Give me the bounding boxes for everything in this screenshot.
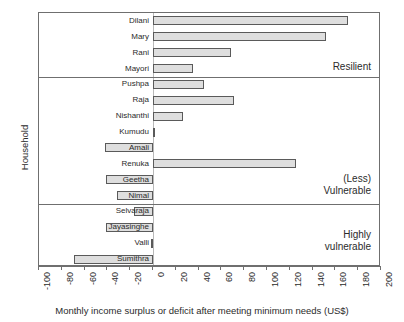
x-tick <box>357 266 358 270</box>
bar-row: Sumithra <box>39 251 379 267</box>
x-tick-label: 140 <box>316 272 326 302</box>
bar-row: Selvaraja <box>39 204 379 220</box>
bar-row: Valli <box>39 235 379 251</box>
x-tick <box>289 266 290 270</box>
bar-label-raja: Raja <box>133 94 149 106</box>
x-tick-label: 60 <box>224 272 234 302</box>
bar-row: Pushpa <box>39 77 379 93</box>
bar-row: Dilani <box>39 13 379 29</box>
bar-pushpa <box>153 80 204 89</box>
bar-label-kumudu: Kumudu <box>119 126 149 138</box>
bar-row: Geetha <box>39 172 379 188</box>
x-axis-line <box>38 266 380 267</box>
x-tick-label: -60 <box>88 272 98 302</box>
bar-label-rani: Rani <box>133 47 149 59</box>
bar-label-geetha: Geetha <box>123 174 149 186</box>
x-tick-label: 200 <box>384 272 394 302</box>
bar-renuka <box>153 159 296 168</box>
x-tick-label: 160 <box>338 272 348 302</box>
bar-label-nishanthi: Nishanthi <box>116 110 149 122</box>
x-tick <box>84 266 85 270</box>
x-tick <box>106 266 107 270</box>
bar-mayori <box>153 64 193 73</box>
x-tick-label: 0 <box>156 272 166 302</box>
bar-label-renuka: Renuka <box>121 158 149 170</box>
bar-dilani <box>153 16 348 25</box>
x-tick <box>38 266 39 270</box>
y-axis-title: Household <box>19 88 30 208</box>
bar-rani <box>153 48 231 57</box>
x-tick <box>220 266 221 270</box>
x-tick <box>175 266 176 270</box>
x-tick <box>152 266 153 270</box>
bar-nishanthi <box>153 112 183 121</box>
x-tick <box>380 266 381 270</box>
bar-row: Mayori <box>39 61 379 77</box>
x-tick <box>312 266 313 270</box>
bar-label-nimal: Nimal <box>129 190 149 202</box>
bar-label-pushpa: Pushpa <box>122 78 149 90</box>
x-tick <box>198 266 199 270</box>
bar-label-mayori: Mayori <box>125 63 149 75</box>
x-tick-label: 40 <box>202 272 212 302</box>
bar-row: Nishanthi <box>39 108 379 124</box>
x-axis-title: Monthly income surplus or deficit after … <box>0 305 404 316</box>
x-tick-label: 20 <box>179 272 189 302</box>
x-tick <box>334 266 335 270</box>
bar-label-valli: Valli <box>134 237 149 249</box>
x-tick-label: -40 <box>110 272 120 302</box>
bar-label-jayasinghe: Jayasinghe <box>109 221 149 233</box>
bar-row: Raja <box>39 92 379 108</box>
bar-valli <box>151 239 153 248</box>
x-tick-label: -100 <box>42 272 52 302</box>
bar-raja <box>153 96 234 105</box>
x-tick-label: 80 <box>247 272 257 302</box>
x-tick-label: 100 <box>270 272 280 302</box>
bar-row: Nimal <box>39 188 379 204</box>
bar-row: Rani <box>39 45 379 61</box>
x-tick <box>129 266 130 270</box>
x-tick-label: -80 <box>65 272 75 302</box>
x-tick <box>243 266 244 270</box>
x-tick-label: 180 <box>361 272 371 302</box>
bar-row: Amali <box>39 140 379 156</box>
bar-label-amali: Amali <box>129 142 149 154</box>
bar-row: Mary <box>39 29 379 45</box>
bar-row: Renuka <box>39 156 379 172</box>
bar-label-mary: Mary <box>131 31 149 43</box>
chart-container: Household Resilient (Less) Vulnerable Hi… <box>0 0 404 322</box>
bar-label-selvaraja: Selvaraja <box>116 205 149 217</box>
bar-label-dilani: Dilani <box>129 15 149 27</box>
bar-row: Kumudu <box>39 124 379 140</box>
bar-label-sumithra: Sumithra <box>117 253 149 265</box>
plot-area: Resilient (Less) Vulnerable Highly vulne… <box>38 12 380 266</box>
x-tick <box>266 266 267 270</box>
x-tick-label: -20 <box>133 272 143 302</box>
bar-row: Jayasinghe <box>39 219 379 235</box>
bar-kumudu <box>153 128 155 137</box>
x-tick <box>61 266 62 270</box>
x-tick-label: 120 <box>293 272 303 302</box>
bar-mary <box>153 32 326 41</box>
